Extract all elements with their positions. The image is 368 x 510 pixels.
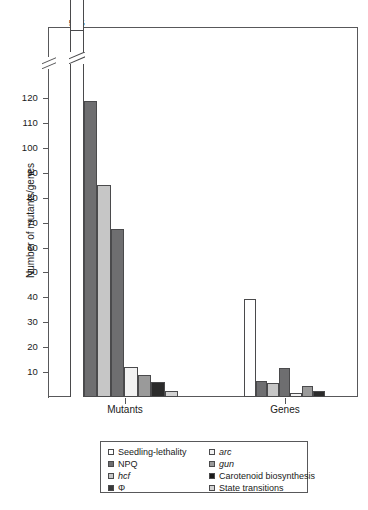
y-tick-label-120: 120 — [6, 93, 38, 103]
y-tick-label-10: 10 — [6, 367, 38, 377]
legend-item-right-1: gun — [209, 458, 307, 469]
legend-label: hcf — [118, 471, 130, 481]
caption-cutoff — [18, 503, 350, 510]
legend: Seedling-lethalityNPQhcfΦ arcgunCaroteno… — [100, 441, 308, 493]
y-axis-title: Number of mutants/genes — [25, 111, 36, 331]
legend-swatch-icon — [108, 485, 114, 491]
legend-label: State transitions — [219, 483, 284, 493]
legend-swatch-icon — [108, 449, 114, 455]
legend-item-left-3: Φ — [108, 482, 206, 493]
bars-container — [48, 27, 358, 397]
legend-label: arc — [219, 447, 232, 457]
legend-label: Carotenoid biosynthesis — [219, 471, 315, 481]
bar-genes-6 — [313, 391, 325, 397]
bar-mutants-2 — [97, 185, 111, 397]
bar-mutants-6 — [151, 382, 165, 397]
bar-genes-5 — [302, 386, 314, 397]
legend-swatch-icon — [108, 473, 114, 479]
bar-mutants-1 — [84, 101, 98, 398]
legend-item-left-1: NPQ — [108, 458, 206, 469]
bar-mutants-4 — [124, 367, 138, 397]
bar-genes-4 — [290, 393, 302, 397]
legend-item-left-2: hcf — [108, 470, 206, 481]
bar-mutants-3 — [111, 229, 125, 397]
legend-swatch-icon — [209, 461, 215, 467]
figure-bar-chart: 102030405060708090100110120 Number of mu… — [0, 0, 368, 510]
bar-genes-0 — [244, 299, 256, 397]
legend-swatch-icon — [108, 461, 114, 467]
bar-mutants-7 — [165, 391, 179, 397]
legend-item-right-0: arc — [209, 446, 307, 457]
legend-label: gun — [219, 459, 234, 469]
legend-column-left: Seedling-lethalityNPQhcfΦ — [108, 446, 206, 494]
x-label-genes: Genes — [240, 404, 330, 415]
broken-bar-break-icon — [69, 52, 85, 64]
legend-item-right-3: State transitions — [209, 482, 307, 493]
legend-label: Seedling-lethality — [118, 447, 187, 457]
bar-genes-3 — [279, 368, 291, 397]
legend-swatch-icon — [209, 485, 215, 491]
bar-mutants-5 — [138, 375, 152, 397]
legend-label: Φ — [118, 483, 125, 493]
broken-bar-top-stub — [70, 30, 84, 52]
legend-item-left-0: Seedling-lethality — [108, 446, 206, 457]
legend-label: NPQ — [118, 459, 138, 469]
legend-column-right: arcgunCarotenoid biosynthesisState trans… — [209, 446, 307, 494]
x-label-mutants: Mutants — [80, 404, 170, 415]
legend-swatch-icon — [209, 473, 215, 479]
y-tick-label-20: 20 — [6, 342, 38, 352]
bar-genes-1 — [256, 381, 268, 397]
legend-swatch-icon — [209, 449, 215, 455]
legend-item-right-2: Carotenoid biosynthesis — [209, 470, 307, 481]
bar-genes-2 — [267, 383, 279, 397]
